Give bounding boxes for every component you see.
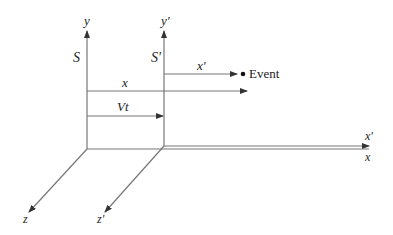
s-prime-y-label: y′ bbox=[159, 13, 170, 28]
frame-s-prime-axes bbox=[105, 31, 369, 212]
x-prime-distance-label: x′ bbox=[196, 58, 206, 73]
x-distance-label: x bbox=[121, 75, 128, 90]
s-prime-frame-label: S′ bbox=[151, 50, 162, 65]
s-prime-z-axis bbox=[105, 146, 164, 212]
measurement-arrows bbox=[87, 74, 247, 116]
vt-label: Vt bbox=[117, 99, 129, 114]
z-prime-axis-label: z′ bbox=[96, 212, 105, 226]
reference-frames-diagram: y S y′ S′ x′ Event x Vt x′ x z z′ bbox=[0, 0, 393, 235]
x-prime-axis-label: x′ bbox=[364, 129, 373, 143]
event-label: Event bbox=[249, 66, 280, 81]
frame-s-axes bbox=[29, 31, 164, 212]
x-axis-label: x bbox=[364, 150, 371, 164]
z-axis-label: z bbox=[22, 212, 28, 226]
s-y-label: y bbox=[82, 13, 90, 28]
s-frame-label: S bbox=[73, 50, 80, 65]
event-point-icon bbox=[241, 72, 246, 77]
s-z-axis bbox=[29, 149, 87, 212]
